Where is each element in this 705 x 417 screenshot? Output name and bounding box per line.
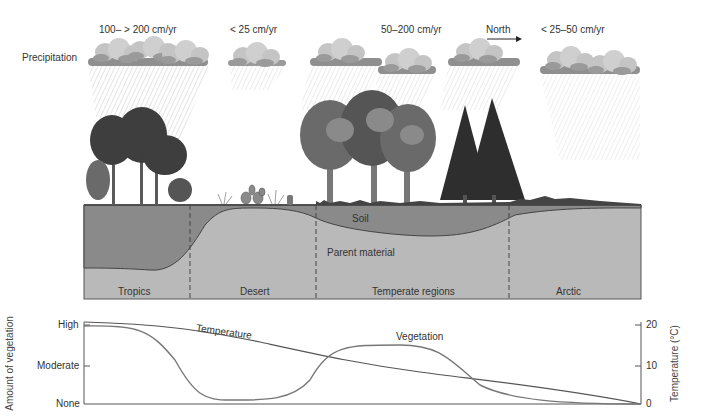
tick-10: 10 (646, 360, 657, 371)
cactus-icon (241, 185, 265, 204)
soil-label: Soil (352, 213, 369, 224)
tick-none: None (56, 398, 80, 409)
region-arctic: Arctic (556, 286, 581, 297)
region-temperate: Temperate regions (372, 286, 455, 297)
cloud-arctic-icon (540, 46, 640, 160)
temperature-curve (84, 322, 641, 404)
tick-moderate: Moderate (37, 360, 79, 371)
cloud-desert-icon (228, 42, 286, 90)
rock-icon (287, 195, 293, 205)
left-axis-label: Amount of vegetation (4, 316, 15, 411)
biome-diagram (0, 0, 705, 417)
tick-high: High (58, 319, 79, 330)
right-axis-label: Temperature (°C) (669, 325, 680, 402)
region-desert: Desert (240, 286, 269, 297)
vegetation-curve (84, 326, 641, 404)
vegetation-temperature-chart (84, 322, 641, 404)
conifer-trees-icon (440, 98, 525, 205)
region-tropics: Tropics (118, 286, 150, 297)
vegetation-curve-label: Vegetation (396, 331, 443, 342)
tick-20: 20 (646, 319, 657, 330)
parent-material-label: Parent material (327, 247, 395, 258)
deciduous-trees-icon (300, 90, 436, 205)
north-arrow-icon (487, 36, 522, 42)
cloud-north-icon (440, 38, 520, 110)
tick-0: 0 (646, 398, 652, 409)
